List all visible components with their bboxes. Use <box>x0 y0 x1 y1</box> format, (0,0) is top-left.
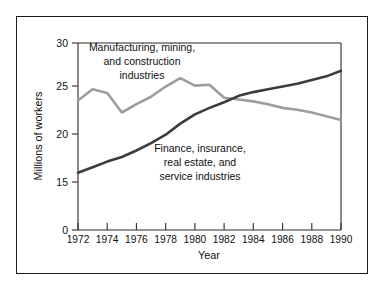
y-tick-label-30: 30 <box>56 37 68 49</box>
label-finance: Finance, insurance, real estate, and ser… <box>154 142 246 182</box>
x-axis-ticks <box>78 223 341 230</box>
plot-frame <box>78 43 341 230</box>
x-tick-label-1986: 1986 <box>271 234 294 245</box>
x-tick-labels: 1972 1974 1976 1978 1980 1982 1984 1986 … <box>67 234 353 245</box>
label-finance-line2: real estate, and <box>164 156 237 168</box>
x-tick-label-1978: 1978 <box>154 234 177 245</box>
label-finance-line3: service industries <box>159 170 240 182</box>
y-tick-label-25: 25 <box>56 80 68 92</box>
line-chart: 30 25 20 15 0 Millions of workers 1972 1… <box>0 0 381 293</box>
y-tick-label-20: 20 <box>56 128 68 140</box>
x-tick-label-1982: 1982 <box>213 234 236 245</box>
x-tick-label-1980: 1980 <box>184 234 207 245</box>
label-manufacturing: Manufacturing, mining, and construction … <box>89 41 195 81</box>
x-tick-label-1976: 1976 <box>125 234 148 245</box>
x-tick-label-1984: 1984 <box>242 234 265 245</box>
label-manufacturing-line1: Manufacturing, mining, <box>89 41 195 53</box>
y-tick-labels: 30 25 20 15 0 <box>56 37 68 236</box>
chart-figure: 30 25 20 15 0 Millions of workers 1972 1… <box>0 0 381 293</box>
x-tick-label-1988: 1988 <box>300 234 323 245</box>
y-axis-ticks <box>72 43 78 230</box>
series-line-manufacturing <box>78 78 341 120</box>
x-tick-label-1974: 1974 <box>96 234 119 245</box>
x-tick-label-1972: 1972 <box>67 234 90 245</box>
x-axis-title: Year <box>198 249 220 261</box>
y-tick-label-15: 15 <box>56 176 68 188</box>
y-axis-title: Millions of workers <box>32 91 44 180</box>
label-finance-line1: Finance, insurance, <box>154 142 246 154</box>
label-manufacturing-line2: and construction <box>103 55 180 67</box>
x-tick-label-1990: 1990 <box>330 234 353 245</box>
label-manufacturing-line3: industries <box>120 69 165 81</box>
